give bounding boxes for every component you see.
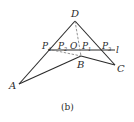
label-B: B <box>76 59 84 70</box>
label-P2: P2 <box>57 41 67 52</box>
segment-DA <box>19 21 75 84</box>
label-P3: P3 <box>101 41 111 52</box>
segment-AB <box>19 56 81 84</box>
label-l: l <box>116 45 119 55</box>
label-D: D <box>70 8 79 19</box>
label-P4: P4 <box>41 41 51 52</box>
geometry-diagram: D P4 P2 O P1 P3 l B C A (b) <box>0 0 134 122</box>
segment-BC <box>81 56 115 65</box>
label-A: A <box>8 80 16 91</box>
label-O: O <box>70 41 78 51</box>
label-C: C <box>117 63 125 74</box>
figure-caption: (b) <box>61 102 74 112</box>
label-P1: P1 <box>81 41 91 52</box>
